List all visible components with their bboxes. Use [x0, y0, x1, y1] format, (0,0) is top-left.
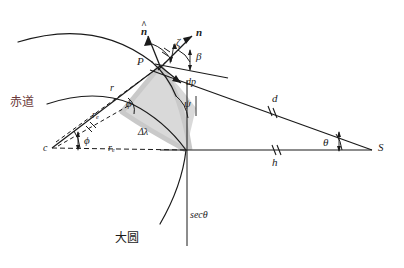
r-upper-label: r	[110, 83, 114, 93]
d-tick-2	[273, 108, 277, 118]
equator-label-cn: 赤道	[10, 96, 34, 108]
delta-lambda-label: Δλ	[138, 127, 148, 137]
beta-label: β	[196, 51, 201, 62]
r-e-mid-label: re	[92, 110, 99, 121]
psi-label: ψ	[184, 98, 191, 109]
diagram-vector-layer	[0, 0, 404, 268]
phi-triangle-label: ϕ	[126, 98, 132, 109]
horizontal-dashed-re	[52, 148, 186, 150]
diagram-canvas: ^n n ζ β dp P r re re ϕ ϕ ψ Δλ c d h θ S…	[0, 0, 404, 268]
d-tick-1	[268, 106, 272, 116]
great-circle-label-cn: 大圆	[115, 232, 139, 244]
theta-label: θ	[323, 137, 328, 148]
r-e-bottom-subscript: e	[112, 146, 115, 153]
r-e-bottom-label: re	[108, 143, 115, 154]
r-e-mid-subscript: e	[96, 113, 99, 120]
beta-arrow-up	[188, 49, 192, 55]
n-hat-mark-glyph: ^	[141, 21, 146, 30]
zeta-label: ζ	[176, 37, 180, 48]
point-S-label: S	[378, 142, 384, 153]
point-c-label: c	[43, 143, 47, 153]
point-P-label: P	[137, 56, 144, 67]
phi-center-label: ϕ	[84, 135, 90, 146]
sec-theta-label: secθ	[190, 210, 208, 220]
h-label: h	[272, 157, 278, 168]
d-label: d	[272, 93, 278, 104]
zeta-arrow-down	[169, 57, 173, 64]
beta-angle-arc	[178, 50, 190, 62]
dp-label: dp	[186, 77, 196, 87]
n-hat-arrow-head	[144, 36, 152, 46]
n-vector-label: n	[196, 27, 202, 38]
great-circle-arc	[160, 150, 186, 224]
upper-arc	[18, 34, 152, 62]
n-hat-label: ^n	[141, 26, 147, 37]
